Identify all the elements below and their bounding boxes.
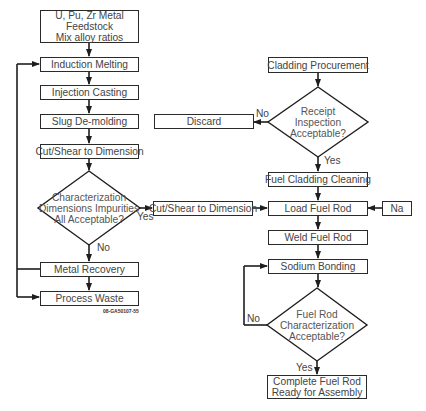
metal-recovery-box: Metal Recovery [40, 262, 139, 277]
cut-shear-label-middle: Cut/Shear to Dimension [149, 203, 257, 214]
fuel-cladding-cleaning-label: Fuel Cladding Cleaning [265, 174, 371, 185]
sodium-bonding-label: Sodium Bonding [281, 261, 356, 272]
discard-label: Discard [187, 116, 222, 127]
cladding-procurement-box: Cladding Procurement [268, 57, 368, 73]
receipt-yes-label: Yes [324, 155, 341, 166]
characterization-decision: Characterization Dimensions Impurities A… [38, 190, 140, 226]
feedstock-line-3: Mix alloy ratios [56, 32, 123, 43]
process-waste-label: Process Waste [55, 293, 123, 304]
cut-shear-label-left: Cut/Shear to Dimension [35, 146, 143, 157]
fuel-rod-characterization-decision: Fuel Rod Characterization Acceptable? [272, 308, 362, 342]
receipt-inspection-decision: Receipt Inspection Acceptable? [278, 105, 358, 139]
cut-shear-box-left: Cut/Shear to Dimension [40, 144, 139, 159]
rod-yes-label: Yes [296, 362, 313, 373]
complete-fuel-rod-box: Complete Fuel Rod Ready for Assembly [267, 375, 367, 399]
weld-fuel-rod-box: Weld Fuel Rod [268, 230, 368, 245]
na-box: Na [382, 201, 412, 216]
induction-melting-label: Induction Melting [51, 59, 128, 70]
complete-line-2: Ready for Assembly [272, 387, 363, 398]
injection-casting-label: Injection Casting [52, 87, 127, 98]
figure-code: 08-GA50107-55 [103, 308, 139, 314]
cladding-procurement-label: Cladding Procurement [267, 60, 368, 71]
fuel-cladding-cleaning-box: Fuel Cladding Cleaning [268, 172, 368, 187]
slug-demolding-box: Slug De-molding [40, 114, 139, 129]
decision-line-2: Dimensions Impurities [39, 203, 139, 214]
rod-decision-line-3: Acceptable? [289, 331, 345, 342]
discard-box: Discard [154, 114, 254, 129]
metal-recovery-label: Metal Recovery [54, 264, 125, 275]
feedstock-line-1: U, Pu, Zr Metal [55, 10, 124, 21]
injection-casting-box: Injection Casting [40, 85, 139, 100]
receipt-no-label: No [256, 108, 269, 119]
induction-melting-box: Induction Melting [40, 57, 139, 72]
rod-decision-line-2: Characterization [280, 320, 354, 331]
na-label: Na [390, 203, 403, 214]
load-fuel-rod-label: Load Fuel Rod [285, 203, 352, 214]
process-waste-box: Process Waste [40, 291, 139, 306]
receipt-line-3: Acceptable? [290, 128, 346, 139]
decision-line-3: All Acceptable? [54, 214, 124, 225]
receipt-line-1: Receipt [301, 106, 336, 117]
load-fuel-rod-box: Load Fuel Rod [268, 201, 368, 216]
sodium-bonding-box: Sodium Bonding [268, 259, 368, 274]
complete-line-1: Complete Fuel Rod [273, 376, 361, 387]
feedstock-line-2: Feedstock [66, 21, 113, 32]
receipt-line-2: Inspection [295, 117, 341, 128]
decision-line-1: Characterization [52, 192, 126, 203]
slug-demolding-label: Slug De-molding [52, 116, 127, 127]
weld-fuel-rod-label: Weld Fuel Rod [284, 232, 351, 243]
rod-no-label: No [247, 313, 260, 324]
cut-shear-box-middle: Cut/Shear to Dimension [153, 201, 253, 216]
fuel-fabrication-flowchart: U, Pu, Zr Metal Feedstock Mix alloy rati… [0, 0, 426, 411]
decision-no-label: No [97, 242, 110, 253]
feedstock-box: U, Pu, Zr Metal Feedstock Mix alloy rati… [40, 10, 139, 43]
rod-decision-line-1: Fuel Rod [296, 309, 337, 320]
